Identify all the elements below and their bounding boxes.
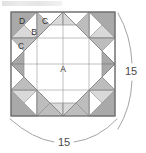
quilt-block-svg: A B C C D 15 15 [0,0,146,153]
brace-bottom-right [74,119,117,142]
dimension-label-right: 15 [125,65,137,77]
brace-right-lower [118,81,132,129]
scan-artifact-strip [2,1,62,6]
brace-right-upper [118,13,132,63]
corner-unit-top-left [11,12,37,38]
quilt-block-diagram: A B C C D 15 15 [0,0,146,153]
brace-bottom-left [10,119,54,142]
dimension-label-bottom: 15 [58,136,70,148]
